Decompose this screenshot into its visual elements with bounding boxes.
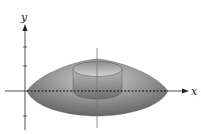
x-axis-arrow-icon (182, 89, 189, 94)
x-axis-label: x (191, 85, 198, 98)
y-axis-arrow-icon (23, 24, 28, 31)
diagram-canvas: y x (0, 0, 201, 134)
y-axis-label: y (20, 11, 28, 24)
cylinder-top (73, 62, 122, 77)
